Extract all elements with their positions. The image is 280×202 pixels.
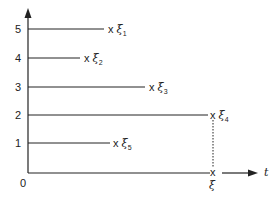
y-tick-4: 4 (12, 52, 24, 64)
y-tick-5: 5 (12, 23, 24, 35)
y-tick-2: 2 (12, 109, 24, 121)
label-xi-3: x ξ3 (149, 81, 168, 95)
baseline-xi-label: ξ (209, 180, 215, 192)
y-tick-1: 1 (12, 137, 24, 149)
label-xi-5: x ξ5 (113, 137, 132, 151)
label-xi-1: x ξ1 (108, 23, 127, 37)
diagram: 5 4 3 2 1 0 x ξ1 x ξ2 x ξ3 x ξ4 x ξ5 x ξ… (0, 0, 280, 202)
x-axis-arrow-icon (248, 170, 258, 177)
y-axis-arrow-icon (25, 8, 32, 18)
y-tick-0: 0 (17, 177, 29, 189)
label-xi-2: x ξ2 (84, 52, 103, 66)
x-axis-label: t (264, 167, 268, 179)
label-xi-4: x ξ4 (210, 109, 229, 123)
diagram-lines (0, 0, 280, 202)
y-tick-3: 3 (12, 81, 24, 93)
baseline-x-marker: x (210, 166, 216, 178)
